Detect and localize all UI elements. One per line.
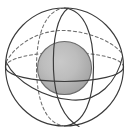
inner-core-sphere — [38, 42, 92, 95]
sphere-diagram-figure — [0, 0, 130, 131]
sphere-vector-drawing — [0, 0, 130, 131]
core-sphere-group — [38, 42, 92, 95]
